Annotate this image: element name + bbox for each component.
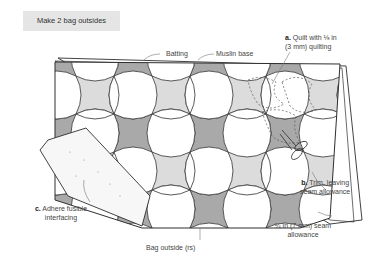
step-a-letter: a. — [285, 34, 291, 41]
bag-outside-label: Bag outside (rs) — [146, 243, 195, 252]
step-c-letter: c. — [35, 205, 41, 212]
step-a-line2: (3 mm) quilting — [285, 43, 331, 50]
step-c-line1: Adhere fusible — [42, 205, 87, 212]
seam-line2: allowance — [287, 231, 318, 238]
step-b-line1: Trim, leaving — [309, 179, 349, 186]
step-a-label: a. Quilt with ⅛ in (3 mm) quilting — [285, 33, 337, 51]
seam-line1: ¼ in (7 mm) seam — [275, 222, 331, 229]
step-b-letter: b. — [301, 179, 307, 186]
muslin-base-label: Muslin base — [216, 49, 253, 58]
step-a-line1: Quilt with ⅛ in — [293, 34, 337, 41]
step-c-line2: interfacing — [45, 214, 77, 221]
step-c-label: c. Adhere fusible interfacing — [26, 204, 96, 222]
batting-label: Batting — [166, 49, 188, 58]
seam-allowance-label: ¼ in (7 mm) seam allowance — [268, 221, 338, 239]
step-b-line2: seam allowance — [300, 188, 350, 195]
step-b-label: b. Trim, leaving seam allowance — [300, 178, 350, 196]
